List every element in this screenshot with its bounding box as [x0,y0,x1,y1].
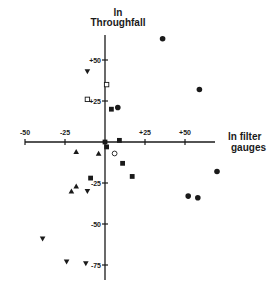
square-filled-marker [120,161,125,166]
triangle-up-marker [73,149,79,154]
triangle-up-marker [96,151,102,156]
y-tick-label: +25 [89,98,101,105]
y-axis-label-line-2: Throughfall [88,18,148,28]
axes [25,35,215,280]
triangle-up-marker [69,188,75,193]
x-tick-label: -25 [60,129,70,136]
x-tick-label: +50 [179,129,191,136]
square-filled-marker [117,138,122,143]
square-filled-marker [88,176,93,181]
y-tick-label: -25 [91,180,101,187]
triangle-down-marker [40,237,46,242]
y-tick-label: -50 [91,221,101,228]
x-axis-label: ln filter gauges [228,131,266,153]
series-open-circle [112,151,117,156]
triangle-up-marker [73,183,79,188]
y-tick-label: -75 [91,262,101,269]
square-filled-marker [109,107,114,112]
circle-filled-marker [185,193,191,199]
triangle-down-marker [85,69,91,74]
circle-filled-marker [195,195,201,201]
data-points [40,36,220,266]
x-axis-label-line-2: gauges [228,142,266,153]
y-tick-label: +50 [89,57,101,64]
square-filled-marker [130,174,135,179]
circle-filled-marker [160,36,166,42]
x-tick-label: -50 [20,129,30,136]
circle-filled-marker [214,169,220,175]
circle-filled-marker [115,105,121,111]
circle-open-marker [112,151,117,156]
series-filled-square [88,107,134,181]
triangle-down-marker [83,261,89,266]
x-axis-label-line-1: ln filter [228,131,266,142]
square-filled-marker [103,140,108,145]
x-tick-label: +25 [139,129,151,136]
y-axis-label: ln Throughfall [88,8,148,28]
triangle-down-marker [64,260,70,265]
square-open-marker [104,82,108,86]
square-filled-marker [104,145,109,150]
triangle-down-marker [85,189,91,194]
series-up-triangle [69,149,102,193]
circle-filled-marker [197,87,203,93]
series-down-triangle [40,69,90,266]
square-open-marker [85,97,89,101]
